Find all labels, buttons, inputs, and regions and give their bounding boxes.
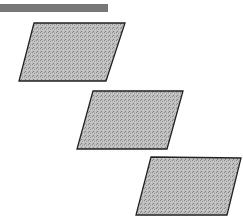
header-bar bbox=[0, 4, 108, 12]
parallelogram-2 bbox=[77, 91, 183, 149]
diagram-canvas bbox=[0, 0, 243, 220]
parallelogram-3 bbox=[136, 157, 241, 215]
parallelogram-1 bbox=[19, 23, 125, 81]
